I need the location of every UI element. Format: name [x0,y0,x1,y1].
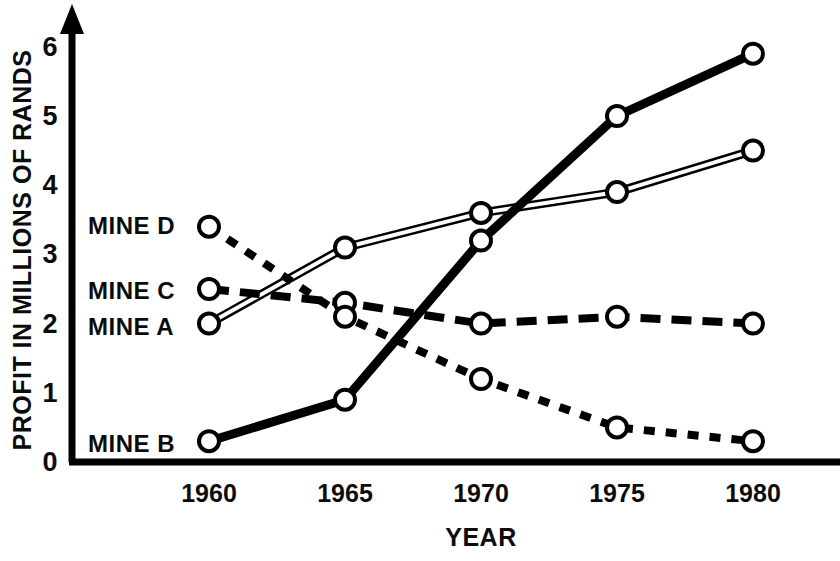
y-tick-3: 3 [42,239,57,269]
y-tick-1: 1 [42,378,57,408]
line-chart: 0 1 2 3 4 5 6 1960 1965 1970 1975 1980 Y… [0,0,840,561]
y-axis-title: PROFIT IN MILLIONS OF RANDS [8,50,36,451]
chart-container: 0 1 2 3 4 5 6 1960 1965 1970 1975 1980 Y… [0,0,840,561]
x-tick-1975: 1975 [589,479,645,507]
data-point-marker [743,314,763,334]
data-point-marker [743,141,763,161]
data-point-marker [471,369,491,389]
data-point-marker [471,314,491,334]
x-tick-1980: 1980 [725,479,781,507]
x-axis-title: YEAR [445,523,516,551]
series-label-mine-d: MINE D [88,212,175,239]
data-point-marker [335,238,355,258]
y-tick-5: 5 [42,101,57,131]
y-tick-0: 0 [42,447,57,477]
series-mine-c [199,279,763,334]
data-point-marker [607,307,627,327]
data-point-marker [743,44,763,64]
data-point-marker [607,417,627,437]
data-point-marker [199,431,219,451]
y-tick-labels: 0 1 2 3 4 5 6 [42,32,57,477]
data-point-marker [471,203,491,223]
x-tick-1960: 1960 [181,479,237,507]
y-tick-2: 2 [42,309,57,339]
series-labels: MINE D MINE C MINE A MINE B [88,212,175,457]
series-label-mine-b: MINE B [88,430,175,457]
data-point-marker [607,182,627,202]
y-tick-6: 6 [42,32,57,62]
x-tick-labels: 1960 1965 1970 1975 1980 [181,479,781,507]
data-point-marker [607,106,627,126]
x-tick-1970: 1970 [453,479,509,507]
data-point-marker [743,431,763,451]
y-tick-4: 4 [42,170,57,200]
y-axis-arrow-icon [60,4,84,34]
data-point-marker [335,307,355,327]
data-point-marker [199,217,219,237]
chart-axes [60,4,840,462]
data-point-marker [335,390,355,410]
x-tick-1965: 1965 [317,479,373,507]
series-label-mine-a: MINE A [88,313,174,340]
data-point-marker [471,231,491,251]
series-layer [199,44,763,452]
data-point-marker [199,279,219,299]
data-point-marker [199,314,219,334]
series-label-mine-c: MINE C [88,277,175,304]
